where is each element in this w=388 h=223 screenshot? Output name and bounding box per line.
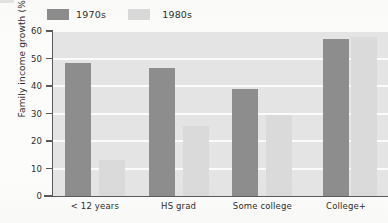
scan-artifact [0,0,14,3]
bar-1980s-college-[interactable] [351,37,377,196]
bar-1980s-some-college[interactable] [266,115,292,196]
y-axis-tick-label: 10 [20,164,42,174]
legend-item-1980s[interactable]: 1980s [128,9,192,20]
y-axis-tick-label-wrap: 10 [20,164,42,174]
x-axis-tick-label: College+ [296,201,388,211]
plot-area [53,31,388,196]
y-axis-tick-label: 0 [20,191,42,201]
y-axis-tick-label: 60 [20,26,42,36]
y-axis-tick-label-wrap: 20 [20,136,42,146]
y-axis-tick-label-wrap: 60 [20,26,42,36]
bar-1970s-some-college[interactable] [232,89,258,196]
bar-1970s--12-years[interactable] [65,63,91,196]
y-axis-tick-label: 40 [20,81,42,91]
y-axis-tick-label-wrap: 40 [20,81,42,91]
bar-1980s--12-years[interactable] [99,160,125,196]
y-axis-tick-label-wrap: 0 [20,191,42,201]
legend-swatch-1970s-icon [47,9,69,20]
chart-figure: 1970s 1980s Family income growth (%) 010… [0,0,388,223]
legend-swatch-1980s-icon [128,9,150,20]
legend-label-1970s: 1970s [76,9,106,20]
y-axis-tick-label-wrap: 50 [20,54,42,64]
bar-1970s-hs-grad[interactable] [149,68,175,196]
gridline [53,30,388,32]
bar-1970s-college-[interactable] [323,39,349,196]
y-axis-tick-label: 20 [20,136,42,146]
y-axis-tick-label: 30 [20,109,42,119]
bar-1980s-hs-grad[interactable] [183,126,209,196]
chart-legend: 1970s 1980s [47,6,192,22]
y-axis-tick-label-wrap: 30 [20,109,42,119]
legend-item-1970s[interactable]: 1970s [47,9,106,20]
legend-label-1980s: 1980s [162,9,192,20]
y-axis-tick-label: 50 [20,54,42,64]
